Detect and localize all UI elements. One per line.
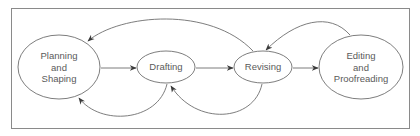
node-planning-label: Planning and Shaping — [41, 50, 78, 85]
edge-revising-to-drafting — [171, 84, 262, 114]
node-editing-label: Editing and Proofreading — [334, 50, 388, 85]
edge-revising-to-planning — [88, 19, 253, 51]
node-revising-label: Revising — [245, 61, 281, 73]
edge-drafting-to-planning — [79, 84, 167, 116]
editing-line-1: Editing — [334, 50, 388, 62]
planning-line-2: and — [41, 61, 78, 73]
node-drafting-label: Drafting — [149, 61, 182, 73]
planning-line-1: Planning — [41, 50, 78, 62]
drafting-line-1: Drafting — [149, 61, 182, 73]
revising-line-1: Revising — [245, 61, 281, 73]
editing-line-2: and — [334, 61, 388, 73]
editing-line-3: Proofreading — [334, 73, 388, 85]
planning-line-3: Shaping — [41, 73, 78, 85]
